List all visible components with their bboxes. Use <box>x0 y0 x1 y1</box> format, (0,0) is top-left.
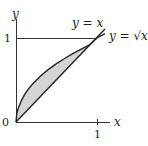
region-diagram: y x 1 0 1 y = x y = √x <box>0 0 148 146</box>
y-axis-label: y <box>11 7 19 21</box>
x-axis-label: x <box>114 115 121 129</box>
y-tick-label-1: 1 <box>4 32 11 45</box>
label-y-equals-x: y = x <box>71 16 103 30</box>
origin-label: 0 <box>2 116 9 129</box>
x-tick-label-1: 1 <box>94 128 101 141</box>
label-y-equals-sqrt-x: y = √x <box>108 29 148 43</box>
